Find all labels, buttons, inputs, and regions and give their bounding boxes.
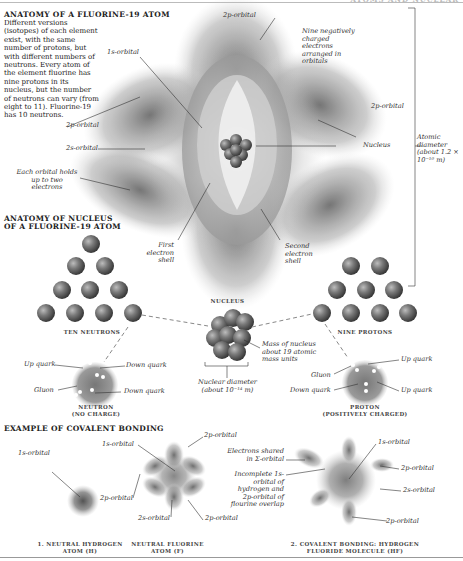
nine-protons-label: Nine Protons	[330, 329, 400, 336]
nucleus-label: Nucleus	[205, 298, 250, 305]
neutron-quark-ball	[72, 354, 118, 408]
label-2p-orbital-left: 2p-orbital	[66, 122, 99, 130]
label-each-orbital: Each orbital holds up to two electrons	[16, 169, 78, 192]
proton-down-quark-label: Down quark	[290, 387, 331, 395]
nucleus-cluster	[206, 309, 254, 361]
fluorine-1s-label: 1s-orbital	[102, 441, 134, 449]
neutron-caption-2: (No charge)	[66, 411, 126, 418]
label-first-shell: First electron shell	[144, 242, 174, 265]
neutron-gluon-label: Gluon	[34, 387, 54, 395]
nucleus-section-title-2: of a Fluorine-19 Atom	[4, 222, 121, 231]
hf-2s-label: 2s-orbital	[403, 487, 435, 495]
ten-neutrons-label: Ten Neutrons	[62, 329, 122, 336]
hydrogen-caption-2: Atom (H)	[30, 548, 130, 555]
fluorine-orbitals	[138, 441, 209, 511]
label-nucleus: Nucleus	[363, 142, 390, 150]
label-atomic-diameter: Atomic diameter (about 1.2 × 10⁻¹⁰ m)	[417, 134, 463, 164]
hf-incomplete-label: Incomplete 1s-orbital of hydrogen and 2p…	[226, 471, 284, 509]
neutron-up-quark-label: Up quark	[24, 361, 55, 369]
atom-section-title: Anatomy of a Fluorine-19 Atom	[4, 10, 184, 19]
proton-caption-1: Proton	[320, 404, 410, 411]
hydrogen-caption-1: 1. Neutral Hydrogen	[30, 541, 130, 548]
hf-caption-1: 2. Covalent Bonding: Hydrogen	[285, 541, 425, 548]
proton-gluon-label: Gluon	[311, 372, 331, 380]
label-2s-orbital: 2s-orbital	[66, 145, 98, 153]
hf-orbitals	[291, 436, 394, 526]
fluorine-caption-2: Atom (F)	[130, 548, 205, 555]
hydrogen-1s-label: 1s-orbital	[18, 450, 50, 458]
fluorine-2p-top-label: 2p-orbital	[204, 432, 237, 440]
label-nine-electrons: Nine negatively charged electrons arrang…	[302, 28, 362, 66]
label-2p-orbital-right: 2p-orbital	[371, 103, 404, 111]
proton-up-quark-label-1: Up quark	[401, 356, 432, 364]
neutron-down-quark-label-1: Down quark	[126, 362, 167, 370]
proton-up-quark-label-2: Up quark	[401, 387, 432, 395]
label-second-shell: Second electron shell	[285, 243, 315, 266]
hf-electrons-shared-label: Electrons shared in Σ-orbital	[226, 448, 284, 463]
label-1s-orbital: 1s-orbital	[107, 49, 139, 57]
fluorine-2p-left-label: 2p-orbital	[100, 495, 133, 503]
mass-label: Mass of nucleus about 19 atomic mass uni…	[262, 341, 317, 364]
neutron-caption-1: Neutron	[66, 404, 126, 411]
proton-pile	[313, 257, 417, 322]
hf-2p-right-label: 2p-orbital	[401, 465, 434, 473]
fluorine-2p-bottom-label: 2p-orbital	[205, 515, 238, 523]
proton-caption-2: (Positively charged)	[320, 411, 410, 418]
atom-description: Different versions (isotopes) of each el…	[4, 19, 99, 120]
neutron-pile	[37, 235, 142, 322]
nuclear-diameter-label: Nuclear diameter (about 10⁻¹⁴ m)	[195, 379, 260, 394]
label-2p-orbital-top: 2p-orbital	[223, 12, 256, 20]
covalent-section-title: Example of Covalent Bonding	[4, 424, 164, 433]
hf-2p-bottom-label: 2p-orbital	[386, 518, 419, 526]
fluorine-2s-label: 2s-orbital	[138, 515, 170, 523]
neutron-down-quark-label-2: Down quark	[124, 388, 165, 396]
hf-caption-2: Fluoride Molecule (HF)	[285, 548, 425, 555]
bottom-rule	[0, 557, 463, 558]
hf-1s-label: 1s-orbital	[378, 439, 410, 447]
fluorine-caption-1: Neutral Fluorine	[130, 541, 205, 548]
